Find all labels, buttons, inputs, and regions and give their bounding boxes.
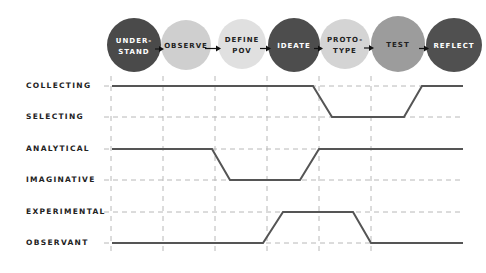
mindset-timeline-chart: UNDER-STANDOBSERVEDEFINEPOVIDEATEPROTO-T… (0, 0, 486, 273)
row-label-collecting: COLLECTING (26, 81, 91, 91)
phase-test: TEST (371, 16, 425, 72)
design-thinking-diagram: UNDER-STANDOBSERVEDEFINEPOVIDEATEPROTO-T… (0, 0, 486, 273)
phase-label: DEFINE (225, 36, 260, 44)
phase-label: POV (232, 47, 251, 55)
phase-label: TYPE (333, 47, 357, 55)
phase-label: STAND (118, 48, 149, 56)
row-label-observant: OBSERVANT (26, 238, 89, 248)
trace-analytical-imaginative (112, 149, 463, 180)
phase-label: PROTO- (327, 36, 363, 44)
mindset-traces (112, 86, 463, 243)
phase-ideate: IDEATE (268, 18, 320, 72)
gridlines (104, 76, 464, 254)
phase-label: REFLECT (433, 42, 474, 50)
phase-reflect: REFLECT (426, 18, 482, 72)
trace-collecting-selecting (112, 86, 463, 117)
phase-label: UNDER- (116, 37, 152, 45)
phase-bubbles: UNDER-STANDOBSERVEDEFINEPOVIDEATEPROTO-T… (107, 16, 482, 72)
phase-label: IDEATE (277, 42, 311, 50)
row-label-selecting: SELECTING (26, 112, 84, 122)
phase-prototype: PROTO-TYPE (320, 19, 370, 69)
row-label-experimental: EXPERIMENTAL (26, 207, 106, 217)
phase-label: TEST (386, 41, 409, 49)
phase-circle (218, 19, 266, 69)
phase-label: OBSERVE (164, 42, 208, 50)
phase-circle (107, 18, 161, 72)
phase-define-pov: DEFINEPOV (218, 19, 266, 69)
row-label-imaginative: IMAGINATIVE (26, 175, 96, 185)
trace-experimental-observant (112, 212, 463, 243)
row-label-analytical: ANALYTICAL (26, 144, 90, 154)
phase-observe: OBSERVE (161, 20, 211, 70)
phase-understand: UNDER-STAND (107, 18, 161, 72)
phase-circle (320, 19, 370, 69)
